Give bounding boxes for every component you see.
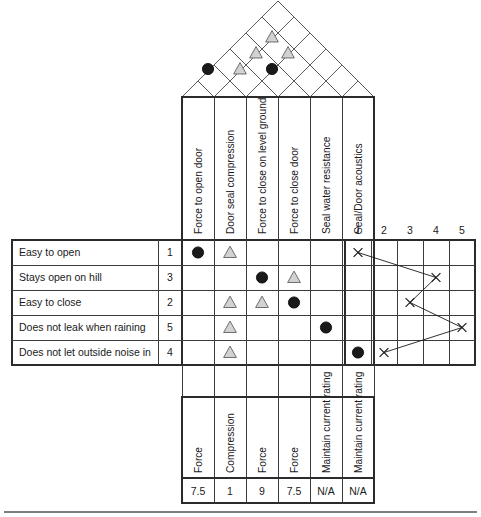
strong-relationship-circle [352, 347, 363, 358]
customer-requirement-label: Easy to close [19, 296, 82, 308]
target-value: 9 [259, 485, 265, 497]
assessment-x-mark [406, 298, 415, 307]
roof-strong-correlation-circle [202, 63, 213, 74]
customer-priority-value: 3 [167, 271, 173, 283]
customer-requirement-label: Does not leak when raining [19, 321, 146, 333]
customer-priority-value: 5 [167, 321, 173, 333]
assessment-scale-label: 5 [459, 224, 465, 236]
assessment-x-mark [380, 348, 389, 357]
target-value: N/A [349, 485, 367, 497]
technical-unit-label: Compression [225, 413, 236, 473]
roof-medium-correlation-triangle [250, 47, 263, 58]
assessment-scale-label: 3 [407, 224, 413, 236]
medium-relationship-triangle [288, 271, 301, 282]
medium-relationship-triangle [224, 246, 237, 257]
assessment-scale-label: 4 [433, 224, 439, 236]
customer-requirement-label: Stays open on hill [19, 271, 102, 283]
technical-unit-label: Maintain current rating [353, 371, 364, 473]
target-value: 7.5 [287, 485, 302, 497]
correlation-roof [182, 1, 374, 97]
technical-unit-label: Force [257, 447, 268, 473]
technical-requirement-label: Force to close on level ground [257, 97, 268, 234]
target-value: N/A [317, 485, 335, 497]
assessment-x-mark [354, 248, 363, 257]
strong-relationship-circle [256, 272, 267, 283]
medium-relationship-triangle [256, 296, 269, 307]
customer-requirement-label: Easy to open [19, 246, 80, 258]
target-value: 1 [227, 485, 233, 497]
roof-medium-correlation-triangle [234, 63, 247, 74]
strong-relationship-circle [320, 322, 331, 333]
customer-priority-value: 4 [167, 346, 173, 358]
roof-medium-correlation-triangle [266, 31, 279, 42]
relationship-matrix: Easy to open1Stays open on hill3Easy to … [12, 240, 374, 365]
technical-unit-label: Force [193, 447, 204, 473]
customer-priority-value: 2 [167, 296, 173, 308]
technical-requirement-label: Force to open door [193, 147, 204, 234]
assessment-scale-label: 1 [355, 224, 361, 236]
targets-section: ForceCompressionForceForceMaintain curre… [182, 365, 374, 503]
strong-relationship-circle [288, 297, 299, 308]
strong-relationship-circle [192, 247, 203, 258]
house-of-quality-diagram: Force to open doorDoor seal compressionF… [0, 0, 481, 517]
assessment-x-mark [432, 273, 441, 282]
medium-relationship-triangle [224, 346, 237, 357]
technical-unit-label: Force [289, 447, 300, 473]
technical-requirement-label: Seal/Door acoustics [353, 143, 364, 234]
medium-relationship-triangle [224, 321, 237, 332]
medium-relationship-triangle [224, 296, 237, 307]
technical-requirements-header: Force to open doorDoor seal compressionF… [182, 97, 374, 240]
assessment-scale-label: 2 [381, 224, 387, 236]
assessment-x-mark [458, 323, 467, 332]
roof-strong-correlation-circle [266, 63, 277, 74]
technical-requirement-label: Door seal compression [225, 130, 236, 234]
customer-requirement-label: Does not let outside noise in [19, 346, 151, 358]
technical-requirement-label: Seal water resistance [321, 136, 332, 234]
target-value: 7.5 [191, 485, 206, 497]
roof-medium-correlation-triangle [282, 47, 295, 58]
competitive-assessment: 12345 [345, 224, 475, 365]
technical-unit-label: Maintain current rating [321, 371, 332, 473]
technical-requirement-label: Force to close door [289, 146, 300, 234]
customer-priority-value: 1 [167, 246, 173, 258]
